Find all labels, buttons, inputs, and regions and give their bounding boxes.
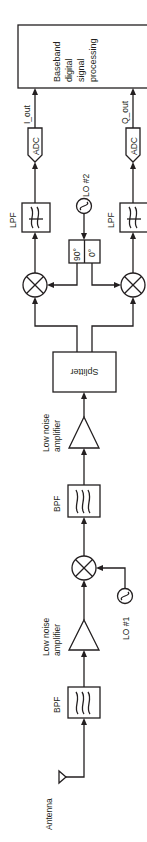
mixer-i-icon [23, 273, 47, 297]
lna2-label-line1: Low noise [41, 413, 51, 452]
arrow-icon [32, 297, 38, 304]
antenna-block: Antenna [44, 718, 87, 830]
baseband-dsp-block: Baseband digital signal processing [18, 25, 147, 88]
adc-q-label: ADC [129, 137, 139, 155]
baseband-label-line3: signal [76, 58, 86, 82]
q-out-label: Q_out [120, 100, 130, 124]
baseband-label-line1: Baseband [52, 41, 62, 82]
antenna-label: Antenna [44, 798, 54, 830]
arrow-icon [81, 392, 87, 399]
baseband-label-line4: processing [88, 38, 98, 82]
arrow-icon [32, 162, 38, 169]
lpf-q-block: LPF [106, 203, 147, 232]
lo2-label: LO #2 [81, 174, 91, 197]
bpf2-block: BPF [52, 485, 100, 556]
lpf-q-label: LPF [106, 212, 116, 228]
phase-0-label: 0° [87, 249, 97, 257]
lpf-i-label: LPF [8, 212, 18, 228]
arrow-icon [32, 232, 38, 239]
arrow-icon [81, 517, 87, 524]
arrow-icon [130, 232, 136, 239]
amplifier-icon [69, 417, 99, 448]
lna1-label-line2: amplifier [52, 624, 62, 656]
antenna-icon [59, 771, 66, 783]
arrow-icon [114, 282, 121, 288]
baseband-label-line2: digital [64, 58, 74, 82]
arrow-icon [81, 650, 87, 657]
arrow-icon [130, 88, 136, 95]
splitter-block: Splitter [53, 352, 116, 417]
lpf-i-block: LPF [8, 203, 50, 232]
phase-shifter-block: 90° 0° [47, 240, 121, 288]
i-out-label: I_out [22, 104, 32, 124]
arrow-icon [130, 162, 136, 169]
arrow-icon [32, 88, 38, 95]
mixer-q-icon [121, 273, 145, 297]
splitter-label: Splitter [70, 367, 98, 377]
amplifier-icon [69, 620, 99, 650]
i-path: I_out ADC LPF [8, 88, 77, 352]
arrow-icon [81, 448, 87, 455]
phase-90-label: 90° [72, 248, 82, 261]
lo1-block: LO #1 [96, 565, 133, 640]
arrow-icon [96, 565, 103, 571]
adc-q-block: ADC [126, 128, 140, 162]
q-path: Q_out ADC LPF [92, 88, 147, 352]
lna1-block: Low noise amplifier [41, 617, 99, 687]
arrow-icon [81, 580, 87, 587]
receiver-block-diagram: Baseband digital signal processing I_out… [0, 0, 147, 842]
mixer1-icon [72, 556, 96, 580]
lna2-label-line2: amplifier [52, 420, 62, 452]
arrow-icon [81, 718, 87, 725]
adc-i-label: ADC [31, 137, 41, 155]
arrow-icon [130, 297, 136, 304]
lo1-label: LO #1 [121, 617, 131, 640]
bpf1-block: BPF [52, 687, 100, 718]
arrow-icon [47, 282, 54, 288]
lna2-block: Low noise amplifier [41, 413, 99, 485]
lo2-block: LO #2 [77, 174, 92, 240]
lna1-label-line1: Low noise [41, 617, 51, 656]
bpf1-label: BPF [52, 696, 62, 713]
adc-i-block: ADC [28, 128, 42, 162]
arrow-icon [81, 233, 87, 240]
bpf2-label: BPF [52, 495, 62, 512]
